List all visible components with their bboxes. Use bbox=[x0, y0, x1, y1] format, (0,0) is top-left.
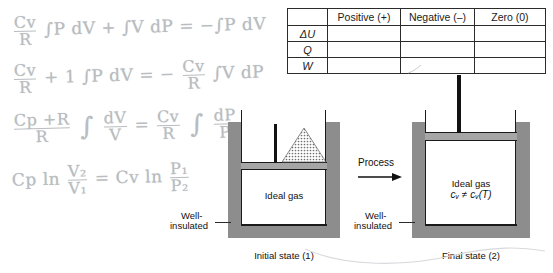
screenshot-root: Cv R ∫P dV + ∫V dP = −∫P dV Cv R + 1 ∫P … bbox=[0, 0, 553, 273]
cylinder-wall-right bbox=[326, 122, 340, 238]
cylinder-base-insulation bbox=[228, 224, 340, 238]
gas-label-initial: Ideal gas bbox=[241, 190, 327, 201]
piston-cylinder-diagram: Ideal gas Well- insulated Initial state … bbox=[0, 0, 553, 273]
process-label: Process bbox=[358, 157, 394, 168]
piston-rod-initial bbox=[274, 124, 277, 163]
cylinder-wall-right bbox=[516, 122, 530, 238]
cylinder-base-insulation bbox=[412, 224, 530, 238]
insulation-label-initial-line2: insulated bbox=[170, 220, 208, 231]
cylinder-inner-floor bbox=[425, 224, 517, 226]
piston-rod-final bbox=[457, 75, 461, 133]
pencil-swoosh-mark bbox=[305, 245, 545, 267]
piston-plate-initial bbox=[241, 162, 327, 170]
cylinder-wall-left bbox=[228, 122, 242, 238]
gas-label-final: Ideal gas bbox=[425, 178, 517, 189]
sand-pile-icon bbox=[282, 128, 326, 163]
cylinder-inner-wall-right bbox=[515, 110, 516, 226]
cylinder-inner-floor bbox=[241, 224, 327, 226]
gas-sublabel-final: cᵥ ≠ cᵥ(T) bbox=[425, 189, 517, 200]
insulation-leader-line-initial bbox=[215, 222, 231, 223]
cylinder-inner-wall-left bbox=[425, 110, 426, 226]
piston-plate-final bbox=[425, 132, 517, 141]
cylinder-final-state: Ideal gas cᵥ ≠ cᵥ(T) bbox=[412, 110, 530, 238]
cylinder-wall-left bbox=[412, 122, 426, 238]
insulation-leader-line-final bbox=[399, 222, 415, 223]
insulation-label-final-line2: insulated bbox=[354, 220, 392, 231]
cylinder-initial-state: Ideal gas bbox=[228, 110, 340, 238]
process-arrow-icon bbox=[358, 172, 402, 182]
